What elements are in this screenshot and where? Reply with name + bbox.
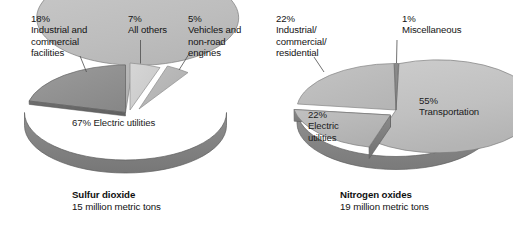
caption-nitrogen-oxides: Nitrogen oxides 19 million metric tons xyxy=(340,189,505,212)
label-electric-utilities: 22% Electric utilities xyxy=(308,109,378,143)
label-all-others: 7% All others xyxy=(128,13,188,36)
label-transportation: 55% Transportation xyxy=(419,95,509,118)
caption-title-sulfur-dioxide: Sulfur dioxide xyxy=(72,189,232,201)
label-electric-utilities: 67% Electric utilities xyxy=(72,117,202,128)
chart-panel-sulfur-dioxide: 18% Industrial and commercial facilities… xyxy=(0,0,256,227)
pie-slice-industrial-commercial-residential[interactable] xyxy=(298,64,397,111)
caption-subtitle-nitrogen-oxides: 19 million metric tons xyxy=(340,201,505,213)
caption-subtitle-sulfur-dioxide: 15 million metric tons xyxy=(72,201,232,213)
label-vehicles-nonroad-engines: 5% Vehicles and non-road engines xyxy=(188,13,256,58)
caption-title-nitrogen-oxides: Nitrogen oxides xyxy=(340,189,505,201)
label-miscellaneous: 1% Miscellaneous xyxy=(402,13,506,36)
label-industrial-commercial-facilities: 18% Industrial and commercial facilities xyxy=(31,13,123,58)
pie-slice-industrial-commercial-facilities[interactable] xyxy=(29,65,126,116)
leader-line-industrial-residential xyxy=(314,57,324,72)
chart-panel-nitrogen-oxides: 22% Industrial/ commercial/ residential … xyxy=(256,0,513,227)
leader-line-miscellaneous xyxy=(397,40,398,63)
label-industrial-commercial-residential: 22% Industrial/ commercial/ residential xyxy=(276,13,362,58)
emissions-pie-figure: 18% Industrial and commercial facilities… xyxy=(0,0,513,227)
caption-sulfur-dioxide: Sulfur dioxide 15 million metric tons xyxy=(72,189,232,212)
